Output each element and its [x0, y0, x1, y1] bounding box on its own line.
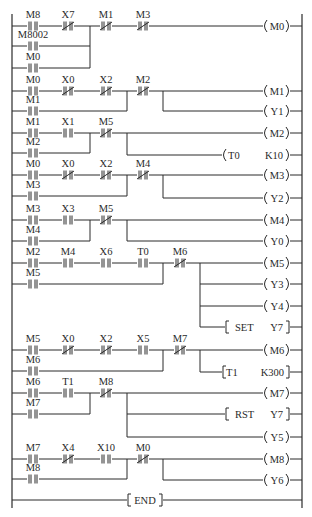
contact-label: X4 [62, 442, 76, 453]
coil-label: M5 [270, 258, 285, 269]
output-coil: Y4 [265, 300, 289, 312]
contact-label: M3 [26, 203, 41, 214]
rung-5: M3 X3 M5 M4 M4 Y0 [12, 203, 302, 247]
contact-label: M5 [26, 333, 41, 344]
contact-no [137, 345, 149, 355]
instruction-operand: Y7 [270, 322, 283, 333]
contact-label: M8 [26, 9, 41, 20]
coil-label: M4 [270, 215, 285, 226]
rung-9: M7 X4 X10 M0 M8 M8 Y6 [12, 442, 302, 486]
contact-no [62, 258, 74, 268]
contact-nc [100, 388, 112, 398]
coil-label: M7 [270, 388, 285, 399]
timer-setting: K300 [261, 367, 284, 378]
contact-label: M1 [99, 9, 114, 20]
coil-label: Y0 [271, 236, 284, 247]
timer-name: T1 [226, 367, 238, 378]
contact-label: X0 [62, 333, 75, 344]
output-coil: Y1 [265, 105, 289, 117]
timer-name: T0 [228, 150, 240, 161]
contact-nc [100, 345, 112, 355]
contact-label: M4 [136, 158, 151, 169]
coil-label: Y4 [271, 301, 285, 312]
contact-no [27, 148, 39, 158]
contact-nc [137, 86, 149, 96]
contact-nc [174, 345, 186, 355]
instruction-op: RST [235, 409, 255, 420]
contact-no [62, 128, 74, 138]
contact-no [27, 191, 39, 201]
contact-label: M8 [26, 462, 41, 473]
contact-label: T0 [137, 246, 149, 257]
contact-label: X2 [100, 74, 113, 85]
set-instruction: SET Y7 [226, 321, 289, 333]
contact-label: X10 [97, 442, 115, 453]
rung-4: M0 X0 X2 M4 M3 M3 Y2 [12, 158, 302, 204]
coil-label: M2 [270, 128, 285, 139]
timer-coil: T0 K10 [224, 149, 289, 161]
contact-nc [137, 170, 149, 180]
contact-nc [137, 454, 149, 464]
contact-label: M2 [26, 136, 41, 147]
contact-label: M6 [26, 354, 41, 365]
coil-label: M8 [270, 454, 285, 465]
contact-no [27, 63, 39, 73]
instruction-op: SET [235, 322, 254, 333]
contact-no [100, 454, 112, 464]
contact-no [27, 474, 39, 484]
contact-label: M5 [99, 203, 114, 214]
contact-label: M7 [26, 442, 41, 453]
contact-no [137, 258, 149, 268]
output-coil: M4 [265, 214, 289, 226]
contact-no [27, 366, 39, 376]
coil-label: M6 [270, 345, 285, 356]
timer-setting: K10 [265, 150, 283, 161]
coil-label: Y1 [271, 106, 284, 117]
rung-3: M1 X1 M5 M2 M2 T0 K10 [12, 116, 302, 161]
output-coil: M6 [265, 344, 289, 356]
contact-label: X5 [137, 333, 150, 344]
coil-label: Y3 [271, 279, 284, 290]
output-coil: M0 [265, 20, 289, 32]
rung-1: M8 X7 M1 M3 M8002 M0 M0 [12, 9, 302, 73]
contact-nc [62, 454, 74, 464]
timer-coil: T1 K300 [223, 366, 289, 378]
contact-label: M0 [136, 442, 151, 453]
contact-label: M6 [26, 376, 41, 387]
output-coil: Y2 [265, 192, 289, 204]
coil-label: M3 [270, 170, 285, 181]
output-coil: Y0 [265, 235, 289, 247]
contact-no [27, 236, 39, 246]
contact-label: M0 [26, 158, 41, 169]
contact-label: X3 [62, 203, 75, 214]
output-coil: M2 [265, 127, 289, 139]
contact-nc [62, 86, 74, 96]
contact-no [27, 106, 39, 116]
contact-nc [62, 345, 74, 355]
contact-no [62, 215, 74, 225]
contact-label: M3 [136, 9, 151, 20]
contact-nc [100, 21, 112, 31]
contact-nc [174, 258, 186, 268]
contact-label: X0 [62, 74, 75, 85]
contact-label: M3 [26, 179, 41, 190]
contact-label: M2 [136, 74, 151, 85]
contact-label: M1 [26, 94, 41, 105]
rung-8: M6 T1 M8 M7 M7 RST Y7 Y5 [12, 376, 302, 443]
contact-label: X1 [62, 116, 75, 127]
contact-nc [100, 215, 112, 225]
output-coil: M3 [265, 169, 289, 181]
contact-nc [100, 86, 112, 96]
contact-label: X7 [62, 9, 75, 20]
output-coil: Y3 [265, 278, 289, 290]
contact-nc [100, 170, 112, 180]
contact-no [27, 41, 39, 51]
coil-label: M1 [270, 86, 285, 97]
contact-label: M1 [26, 116, 41, 127]
rung-6: M2 M4 X6 T0 M6 M5 M5 Y3 Y4 SET Y7 [12, 246, 302, 333]
contact-label: M0 [26, 74, 41, 85]
coil-label: Y5 [271, 432, 284, 443]
contact-label: X0 [62, 158, 75, 169]
contact-nc [62, 170, 74, 180]
output-coil: Y6 [265, 474, 289, 486]
